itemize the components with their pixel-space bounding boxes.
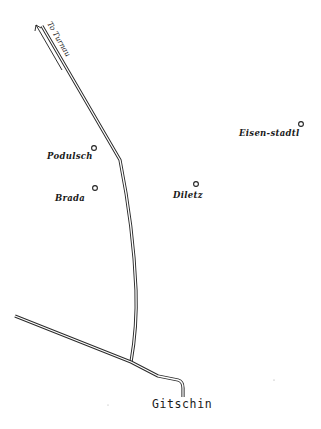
town-label-gitschin: Gitschin <box>152 397 212 411</box>
road-west <box>15 316 183 397</box>
town-label-podulsch: Podulsch <box>47 151 93 161</box>
town-label-diletz: Diletz <box>173 190 203 200</box>
road-network <box>0 0 321 429</box>
town-marker-brada <box>93 186 98 191</box>
town-marker-diletz <box>194 182 199 187</box>
town-label-brada: Brada <box>55 193 85 203</box>
town-label-eisen-stadtl: Eisen-stadtl <box>239 128 300 138</box>
map-canvas: To Turnau Podulsch Brada Diletz Eisen-st… <box>0 0 321 429</box>
town-marker-eisen-stadtl <box>299 122 304 127</box>
town-marker-podulsch <box>92 146 97 151</box>
